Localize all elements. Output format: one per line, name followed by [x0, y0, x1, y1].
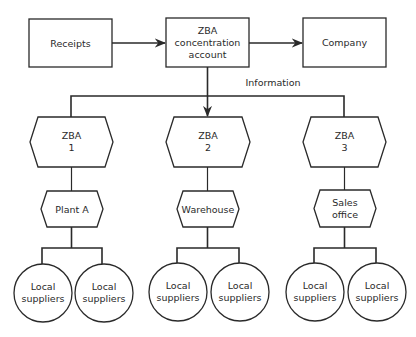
supplier-label-line1: Local — [92, 281, 117, 292]
supplier-label-line1: Local — [228, 280, 253, 291]
concentration-label-line3: account — [189, 49, 227, 60]
concentration-label-line1: ZBA — [198, 25, 218, 36]
zba-3-label-line1: ZBA — [335, 130, 355, 141]
supplier-fork-2 — [177, 248, 239, 264]
plant-a-label: Plant A — [55, 204, 89, 215]
supplier-fork-1 — [42, 248, 102, 264]
zba-1-label-line1: ZBA — [62, 130, 82, 141]
supplier-label-line1: Local — [303, 280, 328, 291]
supplier-node-2a: Local suppliers — [149, 263, 207, 321]
branch-1: ZBA 1 Plant A Local suppliers Local supp… — [14, 117, 133, 322]
supplier-node-1a: Local suppliers — [14, 264, 72, 322]
supplier-node-2b: Local suppliers — [211, 263, 269, 321]
receipts-label: Receipts — [50, 38, 90, 49]
supplier-node-3b: Local suppliers — [348, 263, 406, 321]
supplier-label-line1: Local — [365, 280, 390, 291]
company-label: Company — [322, 37, 368, 48]
supplier-label-line2: suppliers — [293, 292, 336, 303]
company-box: Company — [303, 18, 386, 67]
zba-2-label-line2: 2 — [205, 142, 211, 153]
concentration-label-line2: concentration — [175, 37, 241, 48]
supplier-label-line2: suppliers — [355, 292, 398, 303]
branch-3: ZBA 3 Sales office Local suppliers Local… — [286, 117, 406, 321]
branch-2: ZBA 2 Warehouse Local suppliers Local su… — [149, 117, 269, 321]
supplier-label-line2: suppliers — [21, 293, 64, 304]
zba-2-label-line1: ZBA — [198, 130, 218, 141]
supplier-label-line2: suppliers — [156, 292, 199, 303]
sales-office-label-line1: Sales — [332, 197, 357, 208]
zba-flow-diagram: Receipts ZBA concentration account Compa… — [0, 0, 416, 337]
receipts-box: Receipts — [29, 19, 112, 67]
information-label: Information — [246, 77, 301, 88]
supplier-label-line1: Local — [166, 280, 191, 291]
supplier-label-line1: Local — [31, 281, 56, 292]
zba-1-label-line2: 1 — [68, 142, 74, 153]
warehouse-label: Warehouse — [182, 204, 235, 215]
supplier-node-3a: Local suppliers — [286, 263, 344, 321]
concentration-account-box: ZBA concentration account — [166, 18, 249, 67]
supplier-node-1b: Local suppliers — [75, 264, 133, 322]
sales-office-label-line2: office — [332, 209, 358, 220]
zba-3-label-line2: 3 — [341, 142, 347, 153]
supplier-label-line2: suppliers — [82, 293, 125, 304]
supplier-fork-3 — [314, 248, 376, 264]
supplier-label-line2: suppliers — [218, 292, 261, 303]
